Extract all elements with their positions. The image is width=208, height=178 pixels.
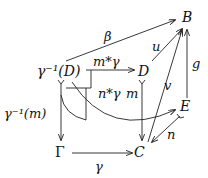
node-B: B	[182, 10, 192, 24]
label-m: m	[126, 87, 138, 100]
label-beta: β	[104, 30, 112, 43]
label-v: v	[164, 79, 171, 92]
label-n: n	[167, 128, 175, 141]
label-gamma-inv-m: γ⁻¹(m)	[4, 107, 46, 120]
label-g: g	[192, 57, 200, 70]
node-E: E	[180, 99, 190, 113]
node-C: C	[134, 145, 145, 159]
label-nstar-gamma: n*γ	[98, 87, 121, 100]
node-Gamma: Γ	[55, 145, 65, 159]
label-mstar-gamma: m*γ	[93, 55, 120, 68]
arrow-n	[152, 116, 180, 142]
node-D: D	[138, 64, 149, 78]
node-gamma-inv-D: γ⁻¹(D)	[37, 64, 81, 78]
label-gamma: γ	[95, 160, 103, 173]
label-u: u	[152, 40, 160, 53]
